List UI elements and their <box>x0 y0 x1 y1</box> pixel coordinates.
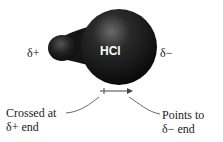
leader-line-right <box>129 97 160 114</box>
crossed-label: Crossed at δ+ end <box>6 106 56 134</box>
leader-line-left <box>66 97 99 113</box>
points-line1: Points to <box>162 108 204 122</box>
molecule-label: HCl <box>100 44 121 58</box>
points-line2: δ− end <box>162 122 204 136</box>
dipole-arrow <box>100 88 133 94</box>
crossed-line1: Crossed at <box>6 106 56 120</box>
crossed-line2: δ+ end <box>6 120 56 134</box>
delta-plus-label: δ+ <box>27 46 39 60</box>
delta-minus-label: δ− <box>160 46 172 60</box>
points-label: Points to δ− end <box>162 108 204 136</box>
